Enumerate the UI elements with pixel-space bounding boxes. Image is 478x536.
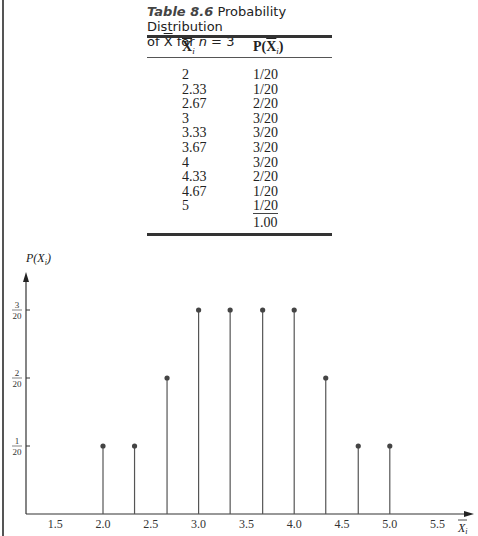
stem-dot: [132, 443, 137, 448]
x-tick-label: 5.5: [430, 517, 445, 531]
x-tick-label: 3.0: [191, 517, 206, 531]
stem-dot: [356, 443, 361, 448]
y-axis-arrow-icon: [23, 272, 29, 282]
x-axis-title: Xi: [457, 520, 468, 536]
stem-dot: [196, 307, 201, 312]
x-tick-label: 4.0: [287, 517, 302, 531]
y-ticks: 120220320: [12, 300, 30, 457]
y-tick-denominator: 20: [13, 379, 23, 389]
y-tick-denominator: 20: [13, 311, 23, 321]
x-ticks: 1.52.02.53.03.54.04.55.05.5: [48, 517, 445, 531]
chart-axes: [23, 272, 474, 517]
stem-dot: [323, 375, 328, 380]
stem-dot: [228, 307, 233, 312]
stem-dot: [260, 307, 265, 312]
stem-dot: [164, 375, 169, 380]
stem-dot: [292, 307, 297, 312]
stems: [100, 307, 392, 514]
svg-text:Xi: Xi: [457, 521, 468, 536]
x-tick-label: 4.5: [335, 517, 350, 531]
x-tick-label: 1.5: [48, 517, 63, 531]
x-tick-label: 2.0: [96, 517, 111, 531]
y-axis-title: P(Xi): [25, 251, 51, 267]
stem-chart: 120220320 1.52.02.53.03.54.04.55.05.5 P(…: [0, 0, 478, 536]
x-axis-arrow-icon: [464, 511, 474, 517]
y-tick-numerator: 1: [15, 436, 20, 446]
x-tick-label: 2.5: [143, 517, 158, 531]
stem-dot: [100, 443, 105, 448]
y-tick-numerator: 3: [15, 300, 20, 310]
y-tick-denominator: 20: [13, 447, 23, 457]
x-tick-label: 3.5: [239, 517, 254, 531]
stem-dot: [387, 443, 392, 448]
x-tick-label: 5.0: [382, 517, 397, 531]
y-tick-numerator: 2: [15, 368, 20, 378]
